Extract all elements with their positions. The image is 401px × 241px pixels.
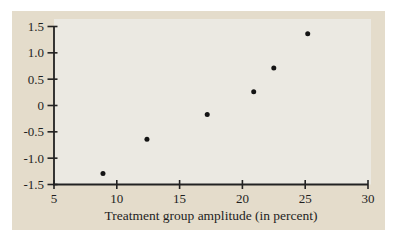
scatter-figure: -1.5-1.0-0.500.51.01.551015202530Treatme… <box>12 11 385 230</box>
x-tick-label: 25 <box>299 191 312 206</box>
x-tick-label: 20 <box>236 191 249 206</box>
x-tick-label: 30 <box>362 191 375 206</box>
y-tick-label: -1.0 <box>23 151 44 166</box>
data-point <box>144 137 149 142</box>
scatter-plot: -1.5-1.0-0.500.51.01.551015202530Treatme… <box>12 11 385 230</box>
x-tick-label: 15 <box>173 191 186 206</box>
y-tick-label: 1.5 <box>28 19 44 34</box>
page: -1.5-1.0-0.500.51.01.551015202530Treatme… <box>0 0 401 241</box>
data-point <box>271 66 276 71</box>
data-point <box>251 89 256 94</box>
data-point <box>100 171 105 176</box>
x-axis-title: Treatment group amplitude (in percent) <box>104 208 317 223</box>
y-tick-label: 1.0 <box>28 45 44 60</box>
y-tick-label: -0.5 <box>23 124 44 139</box>
data-point <box>305 31 310 36</box>
y-tick-label: 0.5 <box>28 72 44 87</box>
y-tick-label: -1.5 <box>23 177 44 192</box>
plot-panel <box>54 19 371 185</box>
x-tick-label: 10 <box>110 191 123 206</box>
data-point <box>205 112 210 117</box>
y-tick-label: 0 <box>38 98 45 113</box>
x-tick-label: 5 <box>51 191 58 206</box>
